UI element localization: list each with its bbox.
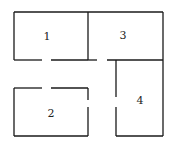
room-3-label: 3	[120, 29, 127, 42]
room-4-label: 4	[137, 94, 144, 107]
floor-plan: 1 2 3 4	[0, 0, 174, 147]
room-1	[14, 12, 88, 60]
room-1-label: 1	[44, 30, 51, 43]
room-2-label: 2	[48, 107, 55, 120]
